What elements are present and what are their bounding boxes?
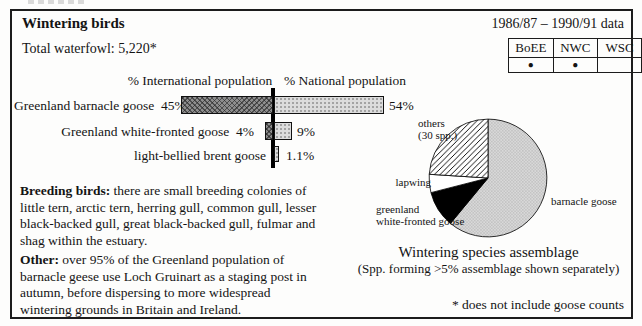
survey-scheme-mark-row: ● ● [509, 58, 642, 73]
pie-caption-title: Wintering species assemblage [350, 244, 627, 261]
survey-col-wsc: WSC [598, 39, 642, 58]
pie-label-barnacle-goose: barnacle goose [551, 196, 617, 208]
bar-chart-header-international: % International population [120, 73, 280, 89]
bar-intl-barnacle-goose [181, 96, 273, 114]
other-note-line: Other: over 95% of the Greenland populat… [20, 252, 354, 269]
bar-natl-value-barnacle-goose: 54% [389, 98, 414, 114]
pie-label-others-line2: (30 spp.) [418, 130, 457, 142]
data-period-label: 1986/87 – 1990/91 data [491, 16, 624, 32]
bar-row-intl-value: 4% [236, 124, 254, 139]
bar-natl-brent-goose [274, 146, 279, 162]
pie-label-others: others (30 spp.) [418, 118, 457, 141]
breeding-note-line: shag within the estuary. [20, 233, 354, 250]
pie-label-lapwing: lapwing [392, 177, 431, 189]
breeding-note-text: there are small breeding colonies of [114, 183, 307, 198]
pie-label-gwfg-line1: greenland [376, 204, 464, 216]
other-note: Other: over 95% of the Greenland populat… [20, 252, 354, 318]
pie-label-others-line1: others [418, 118, 457, 130]
bar-row-species: Greenland white-fronted goose [61, 124, 229, 139]
bar-row-label-barnacle-goose: Greenland barnacle goose 45% [14, 98, 179, 114]
page-title: Wintering birds [22, 15, 125, 32]
bar-row-species: Greenland barnacle goose [14, 98, 154, 113]
survey-mark-nwc-dot-icon: ● [553, 58, 597, 73]
scan-artifact-smudge [28, 0, 86, 4]
other-note-text: over 95% of the Greenland population of [62, 252, 284, 267]
pie-caption-subtitle: (Spp. forming >5% assemblage shown separ… [350, 261, 627, 277]
survey-mark-wsc-empty [598, 58, 642, 73]
total-waterfowl-label: Total waterfowl: 5,220* [22, 41, 157, 57]
other-note-line: barnacle geese use Loch Gruinart as a st… [20, 269, 354, 286]
breeding-note-label: Breeding birds: [20, 183, 110, 198]
survey-col-boee: BoEE [509, 39, 554, 58]
other-note-line: wintering grounds in Britain and Ireland… [20, 302, 354, 319]
other-note-line: autumn, before dispersing to more widesp… [20, 285, 354, 302]
wintering-birds-panel: Wintering birds 1986/87 – 1990/91 data T… [0, 0, 642, 326]
survey-scheme-header-row: BoEE NWC WSC [509, 39, 642, 58]
breeding-birds-note: Breeding birds: there are small breeding… [20, 183, 354, 249]
bar-intl-white-fronted-goose [265, 122, 273, 140]
bar-row-label-white-fronted-goose: Greenland white-fronted goose 4% [40, 124, 254, 140]
survey-scheme-table: BoEE NWC WSC ● ● [508, 38, 642, 73]
bar-natl-white-fronted-goose [274, 122, 292, 140]
bar-row-label-brent-goose: light-bellied brent goose [100, 148, 266, 164]
survey-mark-boee-dot-icon: ● [509, 58, 554, 73]
other-note-label: Other: [20, 252, 59, 267]
bar-natl-value-brent-goose: 1.1% [286, 148, 314, 164]
bar-natl-barnacle-goose [274, 96, 384, 114]
footnote: * does not include goose counts [452, 297, 624, 313]
breeding-note-line: little tern, arctic tern, herring gull, … [20, 200, 354, 217]
pie-label-gwfg-line2: white-fronted goose [376, 216, 464, 228]
pie-label-white-fronted-goose: greenland white-fronted goose [376, 204, 464, 227]
bar-chart-header-national: % National population [275, 73, 415, 89]
survey-col-nwc: NWC [553, 39, 597, 58]
breeding-note-line: Breeding birds: there are small breeding… [20, 183, 354, 200]
breeding-note-line: black-backed gull, great black-backed gu… [20, 216, 354, 233]
bar-natl-value-white-fronted-goose: 9% [297, 124, 315, 140]
